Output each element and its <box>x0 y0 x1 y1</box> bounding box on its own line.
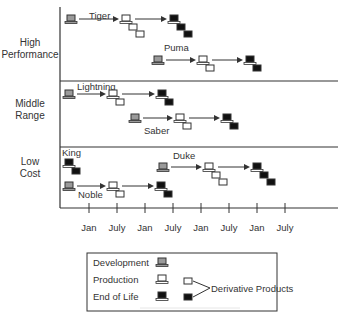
production-derivative-icon <box>116 191 124 197</box>
product-lightning: Lightning <box>63 81 173 105</box>
legend-production-label: Production <box>93 274 138 285</box>
production-computer-icon <box>197 56 209 65</box>
development-computer-icon <box>63 182 75 191</box>
tick-label: July <box>277 222 294 233</box>
product-label: King <box>62 147 81 158</box>
development-computer-icon <box>65 15 77 24</box>
development-computer-icon <box>129 114 141 123</box>
transition-arrow <box>122 183 154 189</box>
production-computer-icon <box>107 90 119 99</box>
end-of-life-computer-icon <box>221 114 233 123</box>
transition-arrow <box>135 16 167 22</box>
legend: Development Production End of Life Deriv… <box>87 253 294 311</box>
tick-label: July <box>109 222 126 233</box>
end-of-life-derivative-icon <box>165 99 173 105</box>
production-derivative-icon <box>212 172 220 178</box>
end-of-life-computer-icon <box>251 163 263 172</box>
tick-label: Jan <box>193 222 208 233</box>
product-label: Saber <box>144 125 169 136</box>
production-derivative-icon <box>184 278 192 284</box>
legend-development-label: Development <box>93 257 149 268</box>
row-label-high-line2: Performance <box>1 49 59 60</box>
end-of-life-computer-icon <box>244 56 256 65</box>
production-derivative-icon <box>136 31 144 37</box>
legend-derivative-label: Derivative Products <box>211 283 294 294</box>
product-lifecycle-diagram: High Performance Middle Range Low Cost J… <box>0 0 348 324</box>
production-derivative-icon <box>206 65 214 71</box>
row-labels: High Performance Middle Range Low Cost <box>1 37 59 179</box>
product-label: Puma <box>164 42 190 53</box>
end-of-life-computer-icon <box>155 182 167 191</box>
production-derivative-icon <box>219 179 227 185</box>
end-of-life-derivative-icon <box>184 294 192 300</box>
chart-frame <box>60 7 338 208</box>
end-of-life-computer-icon <box>156 90 168 99</box>
end-of-life-derivative-icon <box>184 31 192 37</box>
end-of-life-derivative-icon <box>164 191 172 197</box>
transition-arrow <box>212 57 243 63</box>
transition-arrow <box>122 91 155 97</box>
product-noble: Noble <box>63 182 172 200</box>
development-computer-icon <box>157 163 169 172</box>
row-label-high-line1: High <box>20 37 41 48</box>
tick-label: Jan <box>81 222 96 233</box>
row-label-low-line2: Cost <box>20 168 41 179</box>
products: TigerPumaLightningSaberKingNobleDuke <box>62 10 275 200</box>
development-computer-icon <box>152 56 164 65</box>
transition-arrow <box>189 115 220 121</box>
production-computer-icon <box>156 275 168 284</box>
end-of-life-computer-icon <box>156 292 168 301</box>
development-computer-icon <box>63 90 75 99</box>
product-duke: Duke <box>157 150 275 185</box>
end-of-life-derivative-icon <box>177 24 185 30</box>
row-label-middle-line2: Range <box>15 110 45 121</box>
transition-arrow <box>218 164 250 170</box>
end-of-life-derivative-icon <box>260 172 268 178</box>
row-label-low-line1: Low <box>21 156 40 167</box>
end-of-life-derivative-icon <box>267 179 275 185</box>
row-label-middle-line1: Middle <box>15 98 45 109</box>
end-of-life-derivative-icon <box>230 123 238 129</box>
end-of-life-derivative-icon <box>253 65 261 71</box>
legend-end-of-life-label: End of Life <box>93 291 138 302</box>
production-derivative-icon <box>116 99 124 105</box>
development-computer-icon <box>156 258 168 267</box>
tick-label: July <box>165 222 182 233</box>
product-tiger: Tiger <box>65 10 192 37</box>
product-puma: Puma <box>152 42 261 71</box>
product-label: Duke <box>173 150 195 161</box>
production-computer-icon <box>107 182 119 191</box>
production-computer-icon <box>174 114 186 123</box>
production-computer-icon <box>203 163 215 172</box>
transition-arrow <box>143 115 173 121</box>
product-saber: Saber <box>129 114 238 136</box>
product-king: King <box>62 147 81 174</box>
tick-label: Jan <box>137 222 152 233</box>
end-of-life-computer-icon <box>168 15 180 24</box>
product-label: Noble <box>78 189 103 200</box>
tick-label: July <box>221 222 238 233</box>
transition-arrow <box>171 164 202 170</box>
production-derivative-icon <box>129 24 137 30</box>
tick-label: Jan <box>249 222 264 233</box>
production-derivative-icon <box>183 123 191 129</box>
production-computer-icon <box>120 15 132 24</box>
end-of-life-computer-icon <box>63 159 75 168</box>
end-of-life-derivative-icon <box>72 168 80 174</box>
transition-arrow <box>166 57 196 63</box>
